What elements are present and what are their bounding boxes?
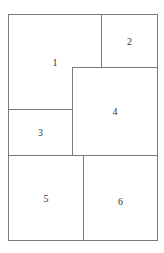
panel-1-label: 1: [53, 57, 58, 68]
panel-6: 6: [83, 155, 158, 241]
panel-2: 2: [101, 14, 158, 68]
panel-5: 5: [8, 155, 84, 241]
panel-6-label: 6: [118, 196, 123, 207]
panel-3: 3: [8, 109, 73, 156]
panel-5-label: 5: [44, 193, 49, 204]
panel-3-label: 3: [38, 127, 43, 138]
panel-2-label: 2: [127, 36, 132, 47]
panel-4-label: 4: [113, 106, 118, 117]
panel-4: 4: [72, 67, 158, 156]
